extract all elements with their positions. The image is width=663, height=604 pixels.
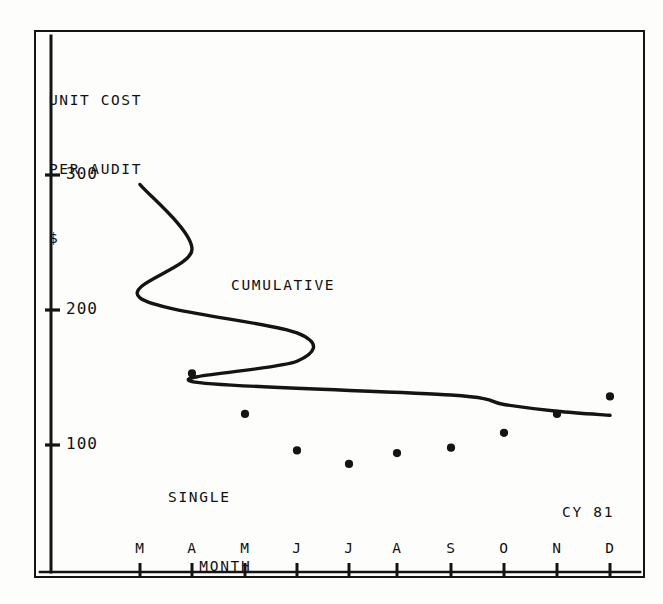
y-tick-label-200: 200 [66,299,98,318]
y-tick-label-100: 100 [66,434,98,453]
x-tick-label-november: N [552,540,562,556]
x-tick-label-december: D [605,540,615,556]
y-axis-title-line-1: UNIT COST [49,89,142,112]
x-tick-label-june: J [292,540,302,556]
x-tick-label-july: J [344,540,354,556]
series-label-single-month-line-2: MONTH [168,555,251,578]
series-label-single-month-line-1: SINGLE [168,486,251,509]
x-tick-label-september: S [446,540,456,556]
period-label: CY 81 [562,504,614,520]
x-tick-label-october: O [499,540,509,556]
series-label-single-month: SINGLE MONTH [168,440,251,604]
series-label-cumulative: CUMULATIVE [231,277,335,293]
x-tick-label-august: A [392,540,402,556]
x-tick-label-march: M [135,540,145,556]
chart-page: UNIT COST PER AUDIT $ 300 200 100 M A M … [0,0,663,604]
y-axis-title-line-3: $ [49,227,142,250]
y-tick-label-300: 300 [66,164,98,183]
